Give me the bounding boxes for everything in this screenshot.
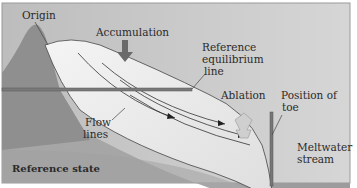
label-reference-1: Reference (202, 42, 256, 53)
glacier-diagram: Origin Accumulation Reference equilibriu… (0, 0, 357, 188)
equilibrium-line (2, 88, 192, 91)
label-reference-2: equilibrium (202, 54, 264, 65)
toe-marker (270, 112, 273, 186)
label-origin: Origin (22, 10, 56, 21)
label-toe-2: toe (282, 102, 299, 113)
label-reference-3: line (204, 66, 224, 77)
label-meltwater-2: stream (297, 154, 334, 165)
label-flow-2: lines (83, 129, 108, 140)
label-toe-1: Position of (281, 90, 337, 101)
label-flow-1: Flow (85, 117, 111, 128)
label-accumulation: Accumulation (96, 27, 169, 38)
label-ablation: Ablation (221, 90, 266, 101)
label-reference-state: Reference state (12, 163, 100, 174)
label-meltwater-1: Meltwater (297, 142, 352, 153)
